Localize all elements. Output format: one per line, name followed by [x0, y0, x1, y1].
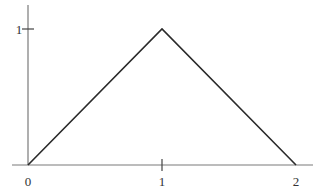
x-label-0: 0: [25, 174, 32, 189]
data-line: [28, 29, 296, 165]
y-label-1: 1: [16, 22, 23, 37]
x-label-2: 2: [293, 174, 300, 189]
x-label-1: 1: [159, 174, 166, 189]
chart: 0 1 2 1: [0, 0, 326, 196]
